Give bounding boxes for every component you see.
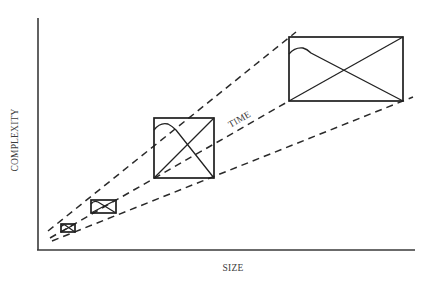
- upper-time-ray: [48, 32, 296, 231]
- middle-time-ray: [50, 101, 289, 238]
- time-rays: [48, 32, 413, 241]
- x-axis-label: SIZE: [223, 263, 244, 273]
- axes: [37, 18, 415, 250]
- stage-box-2: [91, 200, 116, 213]
- y-axis-label: COMPLEXITY: [10, 108, 20, 171]
- time-label: TIME: [227, 109, 253, 130]
- stage-box-1: [61, 224, 75, 232]
- stage-box-4: [289, 37, 403, 101]
- stage-box-3: [154, 118, 214, 178]
- growth-diagram: COMPLEXITY SIZE TIME: [0, 0, 431, 282]
